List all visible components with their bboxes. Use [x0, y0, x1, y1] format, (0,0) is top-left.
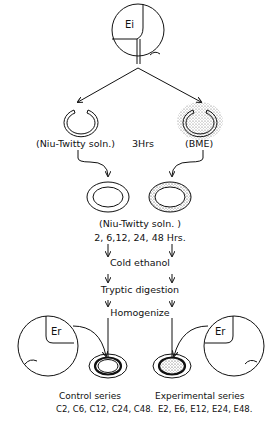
bottom-right-embryo-er	[174, 316, 264, 376]
niu-twitty-medium-label: (Niu-Twitty soln. )	[99, 219, 181, 229]
experimental-series-codes: E2, E6, E12, E24, E48.	[158, 405, 252, 414]
split-arrows	[78, 68, 201, 102]
final-ring-control	[89, 354, 127, 378]
oval-experimental	[149, 182, 191, 212]
experimental-series-title: Experimental series	[155, 392, 245, 401]
er-left-label: Er	[51, 327, 61, 337]
final-ring-experimental	[153, 354, 191, 378]
er-right-label: Er	[215, 327, 225, 337]
timepoints-label: 2, 6,12, 24, 48 Hrs.	[94, 233, 186, 243]
diagram-canvas	[0, 0, 272, 429]
duration-label: 3Hrs	[132, 139, 154, 149]
bme-label: (BME)	[185, 139, 213, 149]
ring-niu-twitty	[64, 110, 98, 137]
control-series-title: Control series	[59, 392, 121, 401]
step-arrows	[108, 244, 172, 306]
ei-label: Ei	[125, 20, 134, 30]
step-cold-ethanol: Cold ethanol	[110, 258, 170, 268]
step-tryptic-digestion: Tryptic digestion	[101, 285, 179, 295]
step-homogenize: Homogenize	[110, 308, 169, 318]
top-embryo-ei	[112, 4, 164, 64]
oval-control	[87, 182, 129, 212]
ring-bme	[177, 102, 223, 140]
control-series-codes: C2, C6, C12, C24, C48.	[56, 405, 153, 414]
bottom-left-embryo-er	[18, 316, 106, 376]
niu-twitty-label: (Niu-Twitty soln.)	[36, 139, 115, 149]
